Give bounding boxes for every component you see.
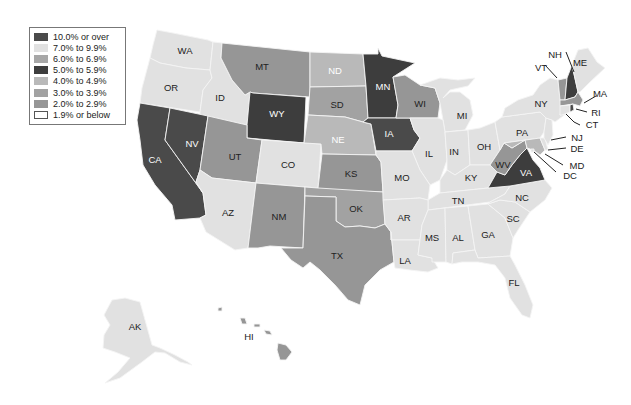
legend-swatch [34,33,48,41]
state-NJ[interactable] [544,118,553,145]
state-FL[interactable] [452,250,533,318]
label-NJ: NJ [571,132,583,143]
legend-label: 1.9% or below [53,110,110,120]
legend-label: 3.0% to 3.9% [53,88,107,98]
label-NY: NY [534,98,548,109]
label-NM: NM [272,211,287,222]
legend-label: 4.0% to 4.9% [53,76,107,86]
label-NC: NC [515,192,529,203]
label-PA: PA [516,127,529,138]
label-ME: ME [573,57,587,68]
legend-label: 7.0% to 9.9% [53,43,107,53]
label-NE: NE [331,134,344,145]
legend-item: 7.0% to 9.9% [34,42,121,53]
label-OR: OR [164,82,178,93]
legend-swatch [34,89,48,97]
leader-line-nj [551,137,566,140]
label-CA: CA [148,154,162,165]
state-ME[interactable] [572,48,605,92]
label-AR: AR [397,212,410,223]
legend-item: 1.9% or below [34,109,121,120]
label-IL: IL [425,148,433,159]
legend-label: 5.0% to 5.9% [53,65,107,75]
legend-item: 2.0% to 2.9% [34,98,121,109]
label-MA: MA [593,88,608,99]
label-UT: UT [229,151,242,162]
label-NV: NV [185,138,199,149]
label-AL: AL [452,232,464,243]
legend-label: 2.0% to 2.9% [53,99,107,109]
label-MO: MO [394,172,409,183]
legend-label: 10.0% or over [53,32,109,42]
label-OK: OK [349,203,363,214]
leader-line-de [548,148,566,150]
label-MS: MS [425,232,439,243]
label-DE: DE [570,143,583,154]
leader-line-md [545,154,563,165]
label-GA: GA [481,229,495,240]
state-HI[interactable] [218,307,292,360]
label-NH: NH [548,49,562,60]
label-WV: WV [495,159,511,170]
label-ND: ND [328,65,342,76]
label-FL: FL [508,277,519,288]
label-KY: KY [465,172,478,183]
label-TN: TN [452,195,465,206]
legend-item: 4.0% to 4.9% [34,76,121,87]
legend-item: 10.0% or over [34,31,121,42]
legend-swatch [34,77,48,85]
legend-swatch [34,55,48,63]
map-legend: 10.0% or over 7.0% to 9.9% 6.0% to 6.9% … [29,27,126,125]
label-IA: IA [385,128,395,139]
leader-line-ri [576,109,587,112]
label-LA: LA [399,255,411,266]
label-KS: KS [345,168,358,179]
label-MT: MT [255,61,269,72]
label-SD: SD [330,99,343,110]
legend-label: 6.0% to 6.9% [53,54,107,64]
label-VA: VA [520,167,533,178]
label-WA: WA [178,45,194,56]
label-WI: WI [414,98,426,109]
legend-swatch [34,66,48,74]
state-AK[interactable] [103,298,192,383]
legend-item: 3.0% to 3.9% [34,87,121,98]
label-SC: SC [506,213,519,224]
label-WY: WY [269,108,285,119]
label-MI: MI [457,110,468,121]
legend-swatch [34,111,48,119]
legend-item: 5.0% to 5.9% [34,65,121,76]
label-TX: TX [331,250,344,261]
legend-swatch [34,100,48,108]
label-VT: VT [535,62,547,73]
state-RI[interactable] [570,104,574,112]
legend-swatch [34,44,48,52]
label-MN: MN [376,81,391,92]
legend-item: 6.0% to 6.9% [34,53,121,64]
label-CO: CO [281,159,295,170]
label-CT: CT [586,119,599,130]
label-AK: AK [129,321,142,332]
label-IN: IN [449,146,459,157]
label-DC: DC [563,170,577,181]
label-HI: HI [244,331,254,342]
leader-line-ct [566,114,580,125]
label-AZ: AZ [222,207,234,218]
label-OH: OH [477,141,491,152]
label-ID: ID [215,92,225,103]
label-RI: RI [591,107,601,118]
state-CT[interactable] [560,105,570,115]
state-DC[interactable] [531,149,534,152]
